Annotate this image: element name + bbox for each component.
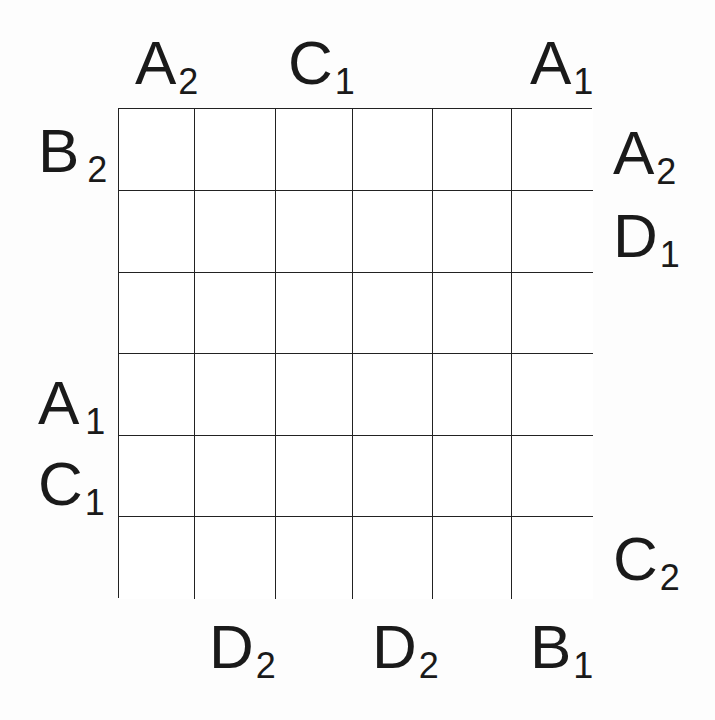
clue-subscript: 1 — [573, 61, 593, 102]
clue-subscript: 2 — [178, 61, 198, 102]
grid-cell[interactable] — [512, 436, 593, 517]
clue-bottom-col4: D2 — [372, 616, 439, 678]
grid-cell[interactable] — [512, 517, 593, 599]
clue-letter: B — [530, 612, 571, 681]
grid-cell[interactable] — [512, 354, 593, 436]
clue-letter: D — [209, 612, 254, 681]
grid-cell[interactable] — [353, 191, 433, 273]
puzzle-grid — [118, 108, 592, 598]
grid-cell[interactable] — [353, 517, 433, 599]
grid-cell[interactable] — [512, 273, 593, 354]
grid-cell[interactable] — [433, 273, 512, 354]
grid-cell[interactable] — [119, 273, 195, 354]
grid-cell[interactable] — [276, 191, 353, 273]
clue-right-row2: D1 — [613, 205, 680, 267]
clue-top-col6: A1 — [530, 32, 593, 94]
grid-cell[interactable] — [195, 191, 276, 273]
grid-cell[interactable] — [195, 109, 276, 191]
grid-cell[interactable] — [433, 517, 512, 599]
clue-top-col3: C1 — [288, 32, 355, 94]
clue-letter: B — [38, 116, 79, 185]
clue-subscript: 2 — [656, 151, 676, 192]
clue-letter: A — [135, 28, 176, 97]
clue-letter: D — [613, 201, 658, 270]
grid-cell[interactable] — [276, 354, 353, 436]
grid-cell[interactable] — [195, 273, 276, 354]
clue-top-col1: A2 — [135, 32, 198, 94]
grid-cell[interactable] — [119, 109, 195, 191]
grid-cell[interactable] — [512, 109, 593, 191]
grid-cell[interactable] — [276, 436, 353, 517]
grid-cell[interactable] — [119, 436, 195, 517]
grid-cell[interactable] — [276, 517, 353, 599]
clue-subscript: 2 — [660, 557, 680, 598]
clue-subscript: 1 — [573, 645, 593, 686]
grid-cell[interactable] — [195, 436, 276, 517]
grid-cell[interactable] — [353, 436, 433, 517]
clue-right-row1: A2 — [613, 122, 676, 184]
clue-subscript: 2 — [256, 645, 276, 686]
clue-bottom-col2: D2 — [209, 616, 276, 678]
clue-subscript: 1 — [660, 234, 680, 275]
grid-cell[interactable] — [119, 517, 195, 599]
clue-right-row6: C2 — [613, 528, 680, 590]
clue-subscript: 2 — [419, 645, 439, 686]
clue-bottom-col6: B1 — [530, 616, 593, 678]
grid-cell[interactable] — [433, 354, 512, 436]
clue-letter: A — [38, 368, 79, 437]
grid-cell[interactable] — [276, 273, 353, 354]
grid-cell[interactable] — [353, 109, 433, 191]
clue-left-row1: B2 — [38, 120, 107, 182]
grid-cell[interactable] — [195, 354, 276, 436]
clue-subscript: 1 — [85, 482, 105, 523]
clue-subscript: 1 — [335, 61, 355, 102]
grid-cell[interactable] — [433, 109, 512, 191]
clue-letter: A — [530, 28, 571, 97]
clue-letter: A — [613, 118, 654, 187]
grid-cell[interactable] — [433, 436, 512, 517]
grid-cell[interactable] — [119, 191, 195, 273]
clue-left-row5: C1 — [38, 453, 105, 515]
clue-letter: C — [38, 449, 83, 518]
grid-cell[interactable] — [512, 191, 593, 273]
clue-letter: C — [288, 28, 333, 97]
clue-letter: D — [372, 612, 417, 681]
grid-cell[interactable] — [276, 109, 353, 191]
clue-left-row4: A1 — [38, 372, 105, 434]
grid-cell[interactable] — [353, 273, 433, 354]
grid-cell[interactable] — [119, 354, 195, 436]
grid-cell[interactable] — [433, 191, 512, 273]
clue-letter: C — [613, 524, 658, 593]
clue-subscript: 2 — [87, 149, 107, 190]
grid-cell[interactable] — [195, 517, 276, 599]
clue-subscript: 1 — [85, 401, 105, 442]
grid-cell[interactable] — [353, 354, 433, 436]
